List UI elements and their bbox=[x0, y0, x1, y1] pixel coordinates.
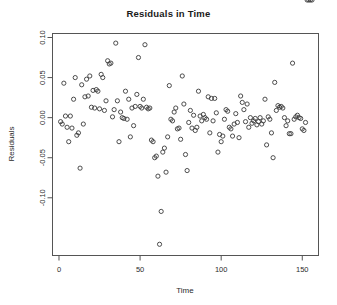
data-point bbox=[112, 108, 116, 112]
data-point bbox=[157, 242, 161, 246]
data-point bbox=[62, 81, 66, 85]
x-tick-label: 0 bbox=[57, 265, 61, 274]
data-point bbox=[135, 92, 139, 96]
data-point bbox=[73, 75, 77, 79]
data-point bbox=[185, 168, 189, 172]
x-tick-label: 50 bbox=[136, 265, 144, 274]
data-point bbox=[78, 166, 82, 170]
data-point bbox=[284, 124, 288, 128]
data-point bbox=[303, 120, 307, 124]
data-point bbox=[68, 114, 72, 118]
data-point bbox=[127, 97, 131, 101]
data-point bbox=[219, 140, 223, 144]
data-point bbox=[263, 97, 267, 101]
data-point bbox=[110, 115, 114, 119]
plot-frame bbox=[53, 34, 319, 256]
data-point bbox=[167, 83, 171, 87]
data-point bbox=[245, 102, 249, 106]
data-point bbox=[67, 140, 71, 144]
data-point bbox=[239, 94, 243, 98]
y-axis-label: Residuals bbox=[7, 126, 16, 161]
data-points-layer bbox=[59, 0, 315, 246]
x-tick-label: 100 bbox=[215, 265, 228, 274]
data-point bbox=[182, 102, 186, 106]
data-point bbox=[117, 140, 121, 144]
y-tick-label: 0.10 bbox=[38, 30, 47, 45]
data-point bbox=[159, 209, 163, 213]
data-point bbox=[179, 137, 183, 141]
data-point bbox=[222, 117, 226, 121]
data-point bbox=[156, 174, 160, 178]
data-point bbox=[102, 108, 106, 112]
data-point bbox=[114, 41, 118, 45]
y-tick-label: -0.05 bbox=[38, 149, 47, 166]
data-point bbox=[237, 136, 241, 140]
data-point bbox=[269, 131, 273, 135]
data-point bbox=[242, 108, 246, 112]
data-point bbox=[211, 119, 215, 123]
data-point bbox=[180, 74, 184, 78]
data-point bbox=[271, 156, 275, 160]
data-point bbox=[70, 126, 74, 130]
data-point bbox=[88, 74, 92, 78]
y-tick-label: 0.00 bbox=[38, 110, 47, 125]
data-point bbox=[128, 135, 132, 139]
data-point bbox=[192, 113, 196, 117]
data-point bbox=[196, 89, 200, 93]
data-point bbox=[97, 107, 101, 111]
data-point bbox=[187, 120, 191, 124]
data-point bbox=[208, 131, 212, 135]
x-axis-ticks: 050100150 bbox=[57, 256, 309, 274]
data-point bbox=[265, 143, 269, 147]
data-point bbox=[216, 150, 220, 154]
y-tick-label: -0.10 bbox=[38, 189, 47, 206]
data-point bbox=[247, 125, 251, 129]
data-point bbox=[71, 97, 75, 101]
data-point bbox=[240, 100, 244, 104]
data-point bbox=[174, 106, 178, 110]
data-point bbox=[143, 43, 147, 47]
data-point bbox=[80, 83, 84, 87]
data-point bbox=[141, 97, 145, 101]
data-point bbox=[115, 99, 119, 103]
data-point bbox=[63, 114, 67, 118]
data-point bbox=[286, 119, 290, 123]
y-tick-label: 0.05 bbox=[38, 70, 47, 85]
data-point bbox=[162, 146, 166, 150]
data-point bbox=[136, 55, 140, 59]
data-point bbox=[188, 108, 192, 112]
x-tick-label: 150 bbox=[296, 265, 309, 274]
data-point bbox=[119, 110, 123, 114]
data-point bbox=[104, 99, 108, 103]
data-point bbox=[234, 112, 238, 116]
x-axis-label: Time bbox=[176, 286, 194, 295]
data-point bbox=[65, 125, 69, 129]
data-point bbox=[166, 135, 170, 139]
data-point bbox=[214, 111, 218, 115]
data-point bbox=[164, 170, 168, 174]
data-point bbox=[123, 89, 127, 93]
data-point bbox=[290, 61, 294, 65]
data-point bbox=[132, 124, 136, 128]
data-point bbox=[273, 80, 277, 84]
data-point bbox=[230, 134, 234, 138]
scatter-plot-canvas: 050100150 0.100.050.00-0.05-0.10 Time Re… bbox=[0, 0, 337, 305]
data-point bbox=[183, 152, 187, 156]
y-axis-ticks: 0.100.050.00-0.05-0.10 bbox=[38, 30, 52, 206]
chart-container: Residuals in Time 050100150 0.100.050.00… bbox=[0, 0, 337, 305]
data-point bbox=[243, 120, 247, 124]
data-point bbox=[81, 122, 85, 126]
